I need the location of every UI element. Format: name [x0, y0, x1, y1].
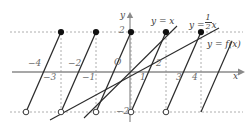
y-tick-neg2: −2	[116, 107, 129, 116]
x-tick-neg3: −3	[43, 73, 56, 82]
open-dot	[163, 109, 169, 115]
y-tick-2: 2	[119, 26, 125, 35]
x-tick-neg2: −2	[68, 59, 81, 68]
graph-figure: y x O 2 −2 −4 −3 −2 −1 1 2 3 4 y = x y =…	[0, 0, 251, 130]
y-axis-arrow-icon	[127, 12, 133, 18]
x-tick-neg4: −4	[28, 59, 41, 68]
f-segment	[201, 41, 232, 112]
closed-dot	[128, 29, 134, 35]
open-dot	[23, 109, 29, 115]
fraction-one-half: 12	[205, 14, 212, 31]
closed-dot	[58, 29, 64, 35]
closed-dot	[93, 29, 99, 35]
x-axis-label: x	[233, 72, 238, 81]
x-tick-1: 1	[140, 73, 146, 82]
label-line-y-equals-half-x: y =12x	[189, 14, 217, 31]
label-function-f-of-x: y = f(x)	[207, 40, 241, 49]
label-line-y-equals-x: y = x	[151, 17, 174, 26]
closed-dot	[163, 29, 169, 35]
label-half-suffix: x	[212, 20, 217, 30]
x-tick-neg1: −1	[82, 73, 95, 82]
origin-label: O	[114, 58, 121, 67]
x-tick-4: 4	[192, 73, 198, 82]
open-dot	[93, 109, 99, 115]
y-axis-label: y	[120, 11, 125, 20]
fraction-denominator: 2	[205, 23, 212, 31]
label-half-prefix: y =	[189, 20, 205, 30]
x-tick-2: 2	[156, 59, 162, 68]
x-tick-3: 3	[176, 73, 182, 82]
open-dot	[58, 109, 64, 115]
x-axis-arrow-icon	[238, 68, 245, 75]
